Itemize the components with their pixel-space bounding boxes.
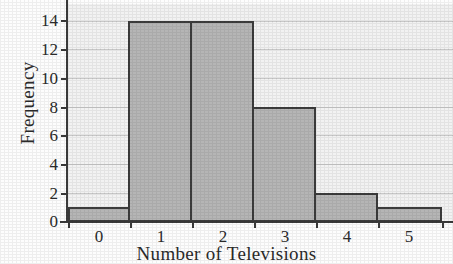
x-axis-line [60, 221, 453, 223]
y-tick-mark-8 [61, 107, 68, 109]
histogram-figure: 14 12 10 8 6 4 2 0 0 1 2 3 4 5 Frequency… [0, 0, 453, 264]
y-tick-mark-12 [61, 49, 68, 51]
bar-4 [314, 193, 378, 222]
y-tick-label-0: 0 [18, 213, 58, 230]
bar-5 [376, 207, 442, 222]
gridline-14 [68, 21, 453, 22]
x-tick-mark-1 [130, 222, 132, 228]
y-tick-mark-6 [61, 135, 68, 137]
y-tick-mark-4 [61, 164, 68, 166]
y-axis-title: Frequency [17, 13, 39, 193]
gridline-12 [68, 49, 453, 50]
y-tick-mark-2 [61, 193, 68, 195]
x-tick-mark-0 [68, 222, 70, 228]
bar-0 [68, 207, 130, 222]
bar-1 [128, 21, 192, 222]
bar-3 [252, 107, 316, 222]
x-tick-mark-end [442, 222, 444, 228]
bar-2 [190, 21, 254, 222]
x-axis-title: Number of Televisions [0, 243, 453, 264]
plot-area [68, 4, 453, 222]
y-tick-mark-0 [61, 221, 68, 223]
x-tick-mark-2 [192, 222, 194, 228]
x-tick-mark-3 [254, 222, 256, 228]
y-axis-line [66, 0, 68, 222]
x-tick-mark-4 [316, 222, 318, 228]
x-tick-mark-5 [378, 222, 380, 228]
gridline-10 [68, 78, 453, 79]
y-tick-mark-14 [61, 20, 68, 22]
y-tick-mark-10 [61, 78, 68, 80]
